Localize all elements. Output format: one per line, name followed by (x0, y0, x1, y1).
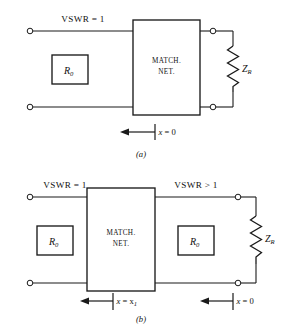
panel-b-marker-arrow-head-x1 (80, 298, 89, 305)
panel-b-load-label: ZR (265, 233, 275, 245)
panel-b: R0 MATCH. NET. VSWR = 1 VSWR > 1 R0 ZR (27, 180, 274, 324)
panel-b-terminal-bottom-right (235, 280, 241, 286)
panel-a-terminal-bottom-left (27, 104, 33, 110)
panel-b-marker-arrow-head-x0 (200, 298, 209, 305)
panel-b-right-vswr-label: VSWR > 1 (174, 180, 217, 190)
circuit-diagram-svg: R0 MATCH. NET. VSWR = 1 ZR x = 0 (a) (0, 0, 282, 331)
panel-a-terminal-top-left (27, 28, 33, 34)
panel-b-caption: (b) (136, 314, 146, 324)
panel-a: R0 MATCH. NET. VSWR = 1 ZR x = 0 (a) (27, 14, 251, 159)
panel-b-network-label-line1: MATCH. (106, 229, 135, 237)
panel-b-terminal-top-left (27, 194, 33, 200)
panel-a-load-label: ZR (242, 63, 252, 75)
panel-b-terminal-bottom-left (27, 280, 33, 286)
panel-a-marker-arrow-head-x0 (120, 129, 129, 136)
panel-a-network-label-line2: NET. (158, 68, 175, 76)
panel-b-marker-label-x0: x = 0 (236, 296, 254, 306)
panel-b-network-label-line2: NET. (113, 240, 130, 248)
figure-container: R0 MATCH. NET. VSWR = 1 ZR x = 0 (a) (0, 0, 282, 331)
panel-b-left-vswr-label: VSWR = 1 (43, 180, 86, 190)
panel-a-terminal-bottom-right (210, 104, 216, 110)
panel-a-left-vswr-label: VSWR = 1 (61, 14, 104, 24)
panel-b-terminal-top-right (235, 194, 241, 200)
panel-b-load-resistor-symbol (251, 216, 262, 264)
panel-b-second-box-label: R0 (189, 236, 200, 248)
panel-b-marker-label-x1: x = x1 (116, 296, 138, 307)
panel-a-terminal-top-right (210, 28, 216, 34)
panel-a-caption: (a) (136, 149, 146, 159)
panel-a-source-box-label: R0 (63, 65, 74, 77)
panel-a-network-label-line1: MATCH. (152, 57, 181, 65)
panel-b-source-box-label: R0 (48, 236, 59, 248)
panel-a-load-resistor-symbol (228, 46, 239, 92)
panel-a-marker-label-x0: x = 0 (158, 127, 176, 137)
